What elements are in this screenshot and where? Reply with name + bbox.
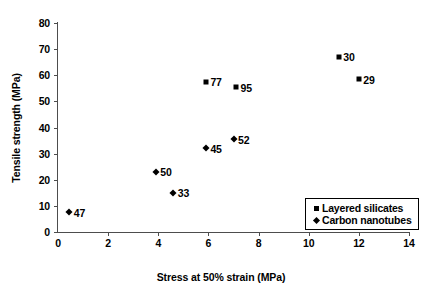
x-axis-title-text: Stress at 50% strain (MPa) [0,271,442,283]
square-marker-icon [356,77,361,82]
x-axis-tick [309,232,310,236]
x-axis-tick-label: 2 [105,238,111,248]
x-axis-tick-label: 12 [353,238,364,248]
y-axis-tick-label: 0 [44,227,50,237]
y-axis-title: Tensile strength (MPa) [6,0,26,255]
data-point: 95 [234,85,239,90]
data-point: 52 [231,137,236,142]
chart-legend: Layered silicatesCarbon nanotubes [305,198,419,230]
y-axis-tick-label: 70 [39,44,50,54]
legend-item-label: Layered silicates [322,202,403,214]
data-point: 30 [336,54,341,59]
data-point: 47 [67,210,72,215]
data-point: 29 [356,77,361,82]
x-axis-tick-label: 8 [256,238,262,248]
y-axis-tick [54,154,58,155]
x-axis-tick [409,232,410,236]
x-axis-line [57,232,410,233]
square-marker-icon [234,85,239,90]
diamond-marker-icon [202,145,209,152]
square-marker-icon [203,79,208,84]
diamond-marker-icon [152,168,159,175]
data-point: 77 [203,79,208,84]
y-axis-tick [54,206,58,207]
y-axis-tick-label: 60 [39,70,50,80]
data-point-label: 95 [241,81,252,93]
square-marker-icon [336,54,341,59]
x-axis-tick [359,232,360,236]
x-axis-tick [259,232,260,236]
diamond-marker-icon [170,189,177,196]
y-axis-tick-label: 50 [39,96,50,106]
y-axis-tick-label: 30 [39,149,50,159]
data-point-label: 30 [343,51,354,63]
data-point-label: 77 [210,76,221,88]
y-axis-tick-label: 80 [39,18,50,28]
y-axis-tick-label: 40 [39,123,50,133]
y-axis-tick [54,101,58,102]
legend-item: Layered silicates [311,202,412,214]
legend-marker-glyph [314,206,319,211]
x-axis-tick-label: 0 [55,238,61,248]
legend-item: Carbon nanotubes [311,214,412,226]
diamond-marker-icon [66,209,73,216]
data-point-label: 52 [238,133,249,145]
x-axis-tick [108,232,109,236]
diamond-marker-icon [311,218,322,223]
data-point: 50 [153,169,158,174]
y-axis-tick [54,128,58,129]
x-axis-tick-label: 4 [155,238,161,248]
y-axis-tick-label: 20 [39,175,50,185]
square-marker-icon [311,206,322,211]
y-axis-tick [54,232,58,233]
diamond-marker-icon [230,136,237,143]
y-axis-title-text: Tensile strength (MPa) [10,73,22,183]
data-point-label: 33 [178,187,189,199]
x-axis-tick-label: 14 [403,238,414,248]
data-point-label: 50 [160,166,171,178]
data-point-label: 45 [210,142,221,154]
y-axis-tick [54,180,58,181]
y-axis-tick-label: 10 [39,201,50,211]
y-axis-tick [54,75,58,76]
data-point-label: 29 [363,73,374,85]
x-axis-tick [208,232,209,236]
data-point-label: 47 [74,206,85,218]
x-axis-tick-label: 6 [206,238,212,248]
data-point: 33 [171,190,176,195]
y-axis-tick [54,49,58,50]
y-axis-tick [54,23,58,24]
data-point: 45 [203,146,208,151]
legend-marker-glyph [313,216,320,223]
x-axis-tick [158,232,159,236]
scatter-chart: 0102030405060708002468101214779530294750… [0,0,442,292]
legend-item-label: Carbon nanotubes [322,214,412,226]
x-axis-tick-label: 10 [303,238,314,248]
